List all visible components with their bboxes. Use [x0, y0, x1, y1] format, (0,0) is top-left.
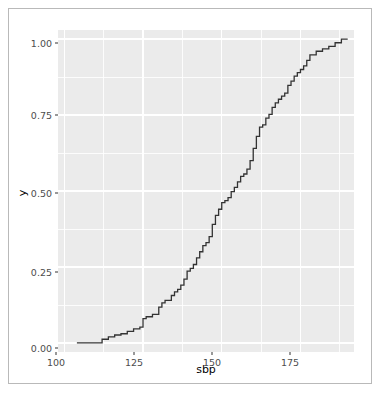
y-tick-label: 1.00: [8, 38, 52, 49]
ecdf-plot: 1.00 0.75 0.50 0.25 0.00 100 125 150 175…: [0, 0, 382, 400]
x-tick-label: 125: [125, 357, 143, 368]
x-tick-mark: [212, 352, 213, 355]
y-tick-mark: [55, 115, 58, 116]
y-tick-label: 0.00: [8, 343, 52, 354]
ecdf-step-line: [58, 30, 354, 352]
x-axis-title: sbp: [196, 363, 216, 376]
y-tick-mark: [55, 348, 58, 349]
x-tick-label: 175: [281, 357, 299, 368]
y-tick-mark: [55, 193, 58, 194]
plot-panel: [58, 30, 354, 352]
x-tick-label: 100: [47, 357, 65, 368]
y-tick-label: 0.75: [8, 110, 52, 121]
y-tick-mark: [55, 43, 58, 44]
x-tick-mark: [290, 352, 291, 355]
y-tick-mark: [55, 272, 58, 273]
x-tick-mark: [134, 352, 135, 355]
y-axis-title: y: [16, 190, 29, 197]
x-tick-mark: [56, 352, 57, 355]
y-tick-label: 0.25: [8, 267, 52, 278]
